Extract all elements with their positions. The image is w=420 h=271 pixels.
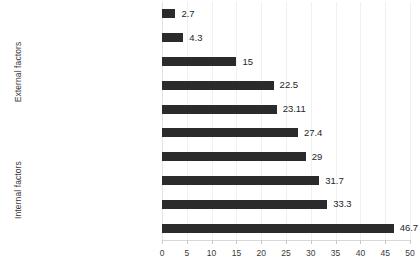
tick-mark-15 [236, 240, 237, 244]
x-tick-label-5: 5 [175, 248, 199, 258]
x-tick-label-20: 20 [249, 248, 273, 258]
bar [162, 200, 327, 209]
tick-mark-10 [212, 240, 213, 244]
bar-row: getting a job29 [0, 145, 420, 169]
bar-value-label: 15 [242, 57, 253, 66]
tick-mark-5 [187, 240, 188, 244]
bar [162, 152, 306, 161]
bar-row: inclusion in society33.3 [0, 192, 420, 216]
tick-mark-25 [286, 240, 287, 244]
x-tick-label-10: 10 [200, 248, 224, 258]
bar [162, 128, 298, 137]
bar-value-label: 22.5 [280, 80, 299, 89]
bar-chart: External factors Internal factors partic… [0, 0, 420, 271]
bar-row: participating of other inmates2.7 [0, 2, 420, 26]
bar [162, 176, 319, 185]
bar-row: spending leisure time31.7 [0, 169, 420, 193]
bar [162, 57, 236, 66]
bar-row: better inmate evaluation27.4 [0, 121, 420, 145]
bar-row: motivation by family members15 [0, 50, 420, 74]
bar-value-label: 33.3 [333, 199, 352, 208]
x-tick-label-40: 40 [348, 248, 372, 258]
bar-value-label: 46.7 [400, 223, 419, 232]
bar-row: self-improvement46.7 [0, 216, 420, 240]
tick-mark-35 [336, 240, 337, 244]
x-tick-label-25: 25 [274, 248, 298, 258]
bar-value-label: 4.3 [189, 33, 202, 42]
bar-value-label: 2.7 [181, 9, 194, 18]
x-tick-label-35: 35 [324, 248, 348, 258]
bar [162, 9, 175, 18]
x-tick-label-0: 0 [150, 248, 174, 258]
bar-row: compulsory participation23.11 [0, 97, 420, 121]
x-tick-label-50: 50 [398, 248, 420, 258]
bar-row: possibility of conditional release22.5 [0, 73, 420, 97]
bar [162, 224, 394, 233]
x-tick-label-15: 15 [224, 248, 248, 258]
tick-mark-30 [311, 240, 312, 244]
bar [162, 105, 277, 114]
tick-mark-45 [385, 240, 386, 244]
bar [162, 33, 183, 42]
x-tick-label-45: 45 [373, 248, 397, 258]
bar [162, 81, 274, 90]
bar-value-label: 23.11 [283, 104, 306, 113]
bar-value-label: 29 [312, 152, 323, 161]
bar-value-label: 27.4 [304, 128, 323, 137]
tick-mark-50 [410, 240, 411, 244]
tick-mark-0 [162, 240, 163, 244]
tick-mark-40 [360, 240, 361, 244]
bar-row: motivation by employees4.3 [0, 26, 420, 50]
x-tick-label-30: 30 [299, 248, 323, 258]
tick-mark-20 [261, 240, 262, 244]
bar-value-label: 31.7 [325, 176, 344, 185]
